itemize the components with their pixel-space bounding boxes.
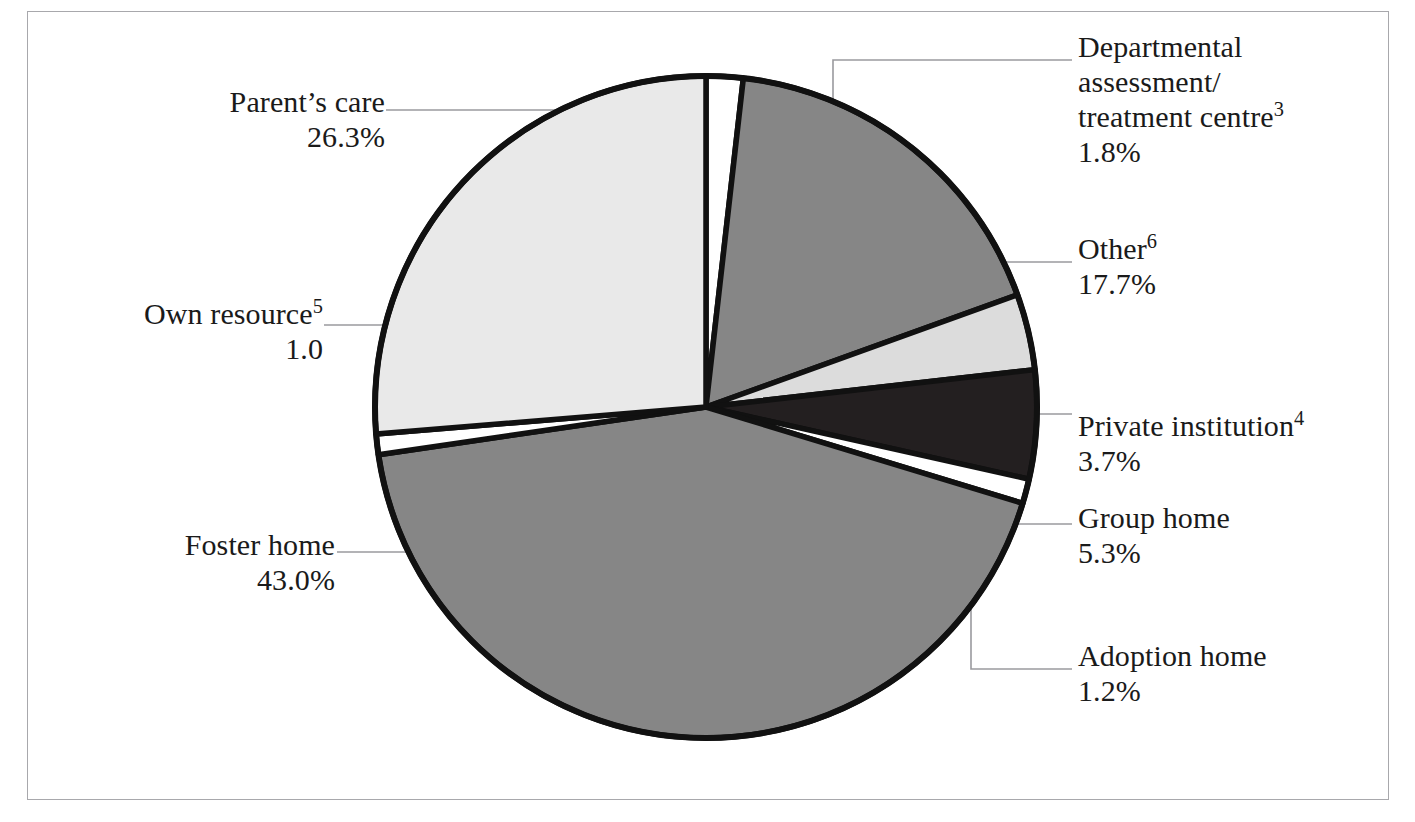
- label-group-home-value: 5.3%: [1078, 535, 1338, 570]
- label-private-institution-footnote: 4: [1294, 407, 1304, 429]
- label-own-resource-value: 1.0: [105, 331, 323, 366]
- label-own-resource: Own resource5 1.0: [105, 296, 323, 366]
- label-own-resource-footnote: 5: [313, 295, 323, 317]
- label-adoption-home-value: 1.2%: [1078, 673, 1338, 708]
- pie-chart-figure: Parent’s care 26.3% Own resource5 1.0 Fo…: [0, 0, 1415, 822]
- label-parents-care-text: Parent’s care: [230, 85, 385, 118]
- label-departmental-footnote: 3: [1274, 98, 1284, 120]
- label-foster-home: Foster home 43.0%: [135, 527, 335, 597]
- label-own-resource-text: Own resource: [144, 297, 313, 330]
- label-adoption-home-text: Adoption home: [1078, 639, 1267, 672]
- label-departmental-line2: assessment/: [1078, 64, 1378, 99]
- label-private-institution-value: 3.7%: [1078, 443, 1388, 478]
- label-parents-care: Parent’s care 26.3%: [140, 84, 385, 154]
- label-group-home: Group home 5.3%: [1078, 500, 1338, 570]
- label-adoption-home: Adoption home 1.2%: [1078, 638, 1338, 708]
- label-parents-care-value: 26.3%: [140, 119, 385, 154]
- label-departmental-line1: Departmental: [1078, 30, 1242, 63]
- label-departmental-value: 1.8%: [1078, 134, 1378, 169]
- label-other-value: 17.7%: [1078, 266, 1338, 301]
- label-other-text: Other: [1078, 232, 1147, 265]
- label-other: Other6 17.7%: [1078, 231, 1338, 301]
- pie-slices: [375, 76, 1037, 738]
- pie-slice-parents-care[interactable]: [375, 76, 706, 434]
- label-private-institution-text: Private institution: [1078, 409, 1294, 442]
- label-departmental-assessment: Departmental assessment/ treatment centr…: [1078, 29, 1378, 169]
- label-other-footnote: 6: [1147, 230, 1157, 252]
- label-foster-home-value: 43.0%: [135, 562, 335, 597]
- leader-adoption-home: [971, 598, 1072, 669]
- label-foster-home-text: Foster home: [185, 528, 335, 561]
- label-private-institution: Private institution4 3.7%: [1078, 408, 1388, 478]
- label-departmental-line3: treatment centre: [1078, 100, 1274, 133]
- label-group-home-text: Group home: [1078, 501, 1230, 534]
